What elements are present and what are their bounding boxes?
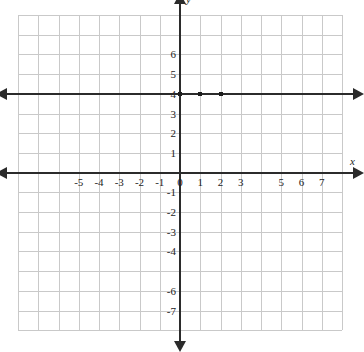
- x-axis-tick-label: 7: [319, 177, 325, 188]
- x-axis-tick-label: 5: [279, 177, 285, 188]
- y-axis-tick-label: -3: [158, 226, 176, 237]
- function-line-left-arrow-icon: [0, 88, 7, 100]
- y-axis-tick-label: -7: [158, 305, 176, 316]
- x-axis-tick-label: 1: [198, 177, 204, 188]
- y-axis-down-arrow-icon: [174, 341, 186, 352]
- x-axis-tick-label: -3: [115, 177, 124, 188]
- y-axis-tick-label: -2: [158, 207, 176, 218]
- y-axis-label: y: [186, 0, 191, 5]
- plotted-point-marker: [198, 92, 202, 96]
- y-axis-tick-label: 2: [158, 128, 176, 139]
- plotted-point-marker: [219, 92, 223, 96]
- function-line-right-arrow-icon: [353, 88, 364, 100]
- x-axis-tick-label: 6: [299, 177, 305, 188]
- y-axis-tick-label: 5: [158, 69, 176, 80]
- x-axis-tick-label: -2: [135, 177, 144, 188]
- y-axis-up-arrow-icon: [174, 0, 186, 4]
- y-axis-tick-label: -4: [158, 246, 176, 257]
- x-axis-right-arrow-icon: [353, 167, 364, 179]
- x-axis-tick-label: -4: [94, 177, 103, 188]
- y-axis-tick-label: 1: [158, 147, 176, 158]
- x-axis-tick-label: 2: [218, 177, 224, 188]
- y-axis-tick-label: -1: [158, 187, 176, 198]
- x-axis-tick-label: 0: [177, 177, 183, 188]
- y-axis-tick-label: 6: [158, 49, 176, 60]
- plotted-point-marker: [178, 92, 182, 96]
- x-axis-label: x: [350, 156, 355, 167]
- y-axis: [179, 3, 181, 342]
- x-axis-tick-label: 3: [238, 177, 244, 188]
- y-axis-tick-label: 3: [158, 108, 176, 119]
- x-axis-tick-label: -5: [74, 177, 83, 188]
- x-axis-left-arrow-icon: [0, 167, 7, 179]
- y-axis-tick-label: -6: [158, 285, 176, 296]
